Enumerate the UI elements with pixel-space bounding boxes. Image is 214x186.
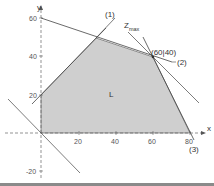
y-tick-60: 60 — [29, 15, 37, 22]
zmax-subscript: max — [129, 26, 140, 32]
y-axis — [39, 5, 43, 178]
constraint-label-1: (1) — [105, 10, 115, 19]
x-axis-label: x — [207, 124, 211, 133]
bottom-bar — [0, 183, 214, 186]
zmax-label: Zmax — [124, 21, 140, 32]
y-axis-label: y — [37, 3, 41, 12]
x-tick-40: 40 — [111, 138, 119, 145]
y-tick-neg20: -20 — [26, 168, 36, 175]
constraint-label-2: (2) — [177, 58, 187, 67]
y-tick-40: 40 — [29, 53, 37, 60]
x-tick-60: 60 — [148, 138, 156, 145]
optimum-label: (60|40) — [151, 48, 177, 57]
y-tick-20: 20 — [29, 92, 37, 99]
x-tick-80: 80 — [185, 138, 193, 145]
region-label: L — [109, 90, 114, 99]
x-tick-20: 20 — [74, 138, 82, 145]
constraint-label-3: (3) — [189, 145, 199, 154]
lp-diagram: y x 20 40 60 80 60 40 20 -20 L (1) (2) (… — [0, 0, 214, 186]
constraint-line-1-ext — [96, 18, 115, 38]
